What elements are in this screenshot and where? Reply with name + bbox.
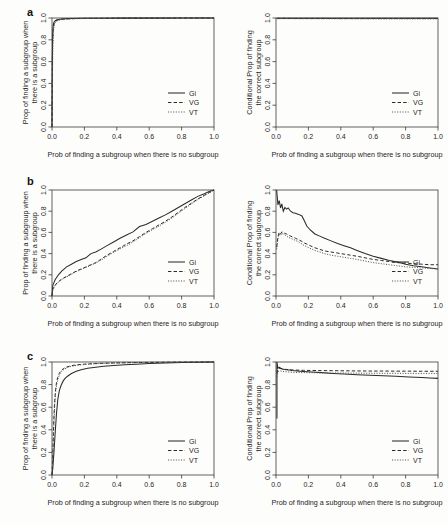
y-tick-label: 1.0 <box>40 185 47 195</box>
panel-row-c: c 0.00.00.20.20.40.40.60.60.80.81.01.0Pr… <box>0 344 448 523</box>
x-tick-label: 0.6 <box>368 481 378 488</box>
y-tick-label: 1.0 <box>264 185 271 195</box>
y-tick-label: 1.0 <box>264 357 271 367</box>
legend-label-vg: VG <box>413 268 423 275</box>
y-tick-label: 0.2 <box>40 447 47 457</box>
x-axis-label: Prob of finding a subgroup when there is… <box>271 150 442 159</box>
y-tick-label: 0.0 <box>40 122 47 132</box>
x-tick-label: 0.2 <box>80 481 90 488</box>
x-tick-label: 0.4 <box>336 302 346 309</box>
x-tick-label: 0.2 <box>80 302 90 309</box>
y-axis-label-line2: the correct subgroup <box>254 210 263 276</box>
x-tick-label: 0.4 <box>112 302 122 309</box>
x-tick-label: 0.6 <box>144 481 154 488</box>
x-tick-label: 0.6 <box>368 133 378 140</box>
x-tick-label: 0.4 <box>112 481 122 488</box>
x-tick-label: 1.0 <box>209 133 219 140</box>
legend-label-vt: VT <box>413 109 423 116</box>
y-tick-label: 1.0 <box>40 357 47 367</box>
x-tick-label: 0.0 <box>271 133 281 140</box>
y-tick-label: 0.0 <box>40 291 47 301</box>
y-tick-label: 0.6 <box>264 402 271 412</box>
y-tick-label: 0.0 <box>40 470 47 480</box>
y-tick-label: 0.8 <box>40 206 47 216</box>
x-tick-label: 0.8 <box>401 302 411 309</box>
y-tick-label: 0.4 <box>40 425 47 435</box>
x-tick-label: 0.0 <box>271 302 281 309</box>
x-tick-label: 0.6 <box>368 302 378 309</box>
legend-label-vt: VT <box>413 457 423 464</box>
y-tick-label: 0.0 <box>264 470 271 480</box>
x-axis-label: Prob of finding a subgroup when there is… <box>47 150 218 159</box>
series-gi <box>277 190 438 269</box>
x-tick-label: 0.4 <box>336 481 346 488</box>
x-tick-label: 1.0 <box>209 481 219 488</box>
x-tick-label: 0.0 <box>271 481 281 488</box>
x-tick-label: 0.8 <box>401 481 411 488</box>
plot-b-right: 0.00.00.20.20.40.40.60.60.80.81.01.0Prob… <box>224 172 448 344</box>
y-tick-label: 0.6 <box>264 57 271 67</box>
x-tick-label: 0.2 <box>304 302 314 309</box>
y-axis-label-line1: Conditional Prop of finding <box>245 376 254 460</box>
figure-roc-panels: a 0.00.00.20.20.40.40.60.60.80.81.01.0Pr… <box>0 0 448 523</box>
legend-label-vg: VG <box>189 99 199 106</box>
y-tick-label: 0.2 <box>40 270 47 280</box>
y-tick-label: 0.0 <box>264 291 271 301</box>
chart-a-left: 0.00.00.20.20.40.40.60.60.80.81.01.0Prob… <box>0 0 224 175</box>
x-tick-label: 1.0 <box>433 302 443 309</box>
x-tick-label: 0.4 <box>112 133 122 140</box>
plot-c-left: 0.00.00.20.20.40.40.60.60.80.81.01.0Prob… <box>0 344 224 523</box>
y-tick-label: 0.8 <box>264 380 271 390</box>
plot-a-left: 0.00.00.20.20.40.40.60.60.80.81.01.0Prob… <box>0 0 224 175</box>
y-tick-label: 0.6 <box>40 57 47 67</box>
chart-b-right: 0.00.00.20.20.40.40.60.60.80.81.01.0Prob… <box>224 172 448 344</box>
y-tick-label: 0.4 <box>264 78 271 88</box>
x-axis-label: Prob of finding a subgroup when there is… <box>47 498 218 507</box>
y-tick-label: 1.0 <box>40 13 47 23</box>
y-tick-label: 0.6 <box>264 227 271 237</box>
y-tick-label: 0.2 <box>40 100 47 110</box>
y-axis-label-line1: Prop of finding a subgroup when <box>21 367 30 471</box>
y-axis-label-line1: Conditional Prop of finding <box>245 201 254 285</box>
legend-label-vg: VG <box>189 447 199 454</box>
x-tick-label: 0.8 <box>177 133 187 140</box>
y-tick-label: 0.2 <box>264 100 271 110</box>
y-tick-label: 0.6 <box>40 402 47 412</box>
legend-label-vg: VG <box>413 447 423 454</box>
legend-label-vt: VT <box>189 109 199 116</box>
panel-row-a: a 0.00.00.20.20.40.40.60.60.80.81.01.0Pr… <box>0 0 448 175</box>
x-tick-label: 0.8 <box>401 133 411 140</box>
y-tick-label: 0.6 <box>40 227 47 237</box>
y-tick-label: 0.2 <box>264 447 271 457</box>
legend-label-gi: Gi <box>413 259 420 266</box>
x-axis-label: Prob of finding a subgroup when there is… <box>271 319 442 328</box>
x-tick-label: 0.2 <box>304 133 314 140</box>
legend-label-vt: VT <box>189 457 199 464</box>
chart-a-right: 0.00.00.20.20.40.40.60.60.80.81.01.0Prob… <box>224 0 448 175</box>
legend-label-vg: VG <box>189 268 199 275</box>
x-tick-label: 1.0 <box>209 302 219 309</box>
y-tick-label: 0.4 <box>40 249 47 259</box>
y-tick-label: 0.8 <box>264 206 271 216</box>
plot-a-right: 0.00.00.20.20.40.40.60.60.80.81.01.0Prob… <box>224 0 448 175</box>
y-axis-label-line2: there is a subgroup <box>30 388 39 450</box>
y-axis-label-line1: Prop of finding a subgroup when <box>21 21 30 125</box>
chart-b-left: 0.00.00.20.20.40.40.60.60.80.81.01.0Prob… <box>0 172 224 344</box>
x-tick-label: 0.2 <box>304 481 314 488</box>
y-tick-label: 0.8 <box>40 380 47 390</box>
x-tick-label: 0.0 <box>47 133 57 140</box>
y-tick-label: 1.0 <box>264 13 271 23</box>
y-axis-label-line1: Conditional Prop of finding <box>245 30 254 114</box>
y-tick-label: 0.0 <box>264 122 271 132</box>
plot-b-left: 0.00.00.20.20.40.40.60.60.80.81.01.0Prob… <box>0 172 224 344</box>
x-axis-label: Prob of finding a subgroup when there is… <box>271 498 442 507</box>
y-tick-label: 0.4 <box>264 425 271 435</box>
x-tick-label: 1.0 <box>433 133 443 140</box>
legend-label-gi: Gi <box>189 259 196 266</box>
chart-c-right: 0.00.00.20.20.40.40.60.60.80.81.01.0Prob… <box>224 344 448 523</box>
y-axis-label-line2: the correct subgroup <box>254 386 263 452</box>
legend-label-gi: Gi <box>413 90 420 97</box>
legend-label-gi: Gi <box>413 438 420 445</box>
y-tick-label: 0.8 <box>264 35 271 45</box>
x-tick-label: 0.6 <box>144 133 154 140</box>
